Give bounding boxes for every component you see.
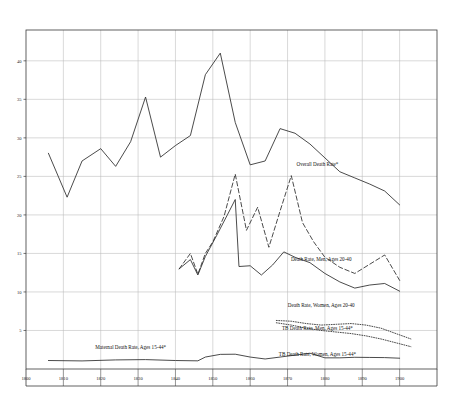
y-tick-label: 35: [17, 97, 22, 102]
x-tick-label: 1890: [358, 376, 368, 381]
x-tick-label: 1860: [246, 376, 256, 381]
y-tick-label: 40: [17, 59, 22, 64]
x-tick-label: 1850: [208, 376, 218, 381]
y-tick-label: 30: [17, 136, 22, 141]
y-tick-label: 25: [17, 174, 22, 179]
x-tick-label: 1900: [395, 376, 405, 381]
y-tick-label: 20: [17, 213, 22, 218]
series-label: Maternal Death Rate, Ages 15-44*: [95, 344, 166, 350]
y-tick-label: 15: [17, 251, 22, 256]
y-tick-label: 10: [17, 290, 22, 295]
mortality-line-chart: 510152025303540 180018101820183018401850…: [0, 0, 475, 396]
chart-container: 510152025303540 180018101820183018401850…: [0, 0, 475, 396]
series-label: Overall Death Rate*: [297, 161, 339, 167]
series-label: Death Rate, Women, Ages 20-40: [288, 302, 355, 308]
series-label: TB Death Rate, Men, Ages 15-44*: [282, 325, 353, 331]
series-label: Death Rate, Men, Ages 20-40: [291, 256, 352, 262]
x-tick-label: 1810: [59, 376, 69, 381]
series-label: TB Death Rate, Women, Ages 15-44*: [279, 351, 357, 357]
x-tick-label: 1840: [171, 376, 181, 381]
x-tick-label: 1880: [320, 376, 330, 381]
x-tick-label: 1820: [96, 376, 106, 381]
x-tick-label: 1830: [133, 376, 143, 381]
x-tick-label: 1800: [21, 376, 31, 381]
x-tick-label: 1870: [283, 376, 293, 381]
